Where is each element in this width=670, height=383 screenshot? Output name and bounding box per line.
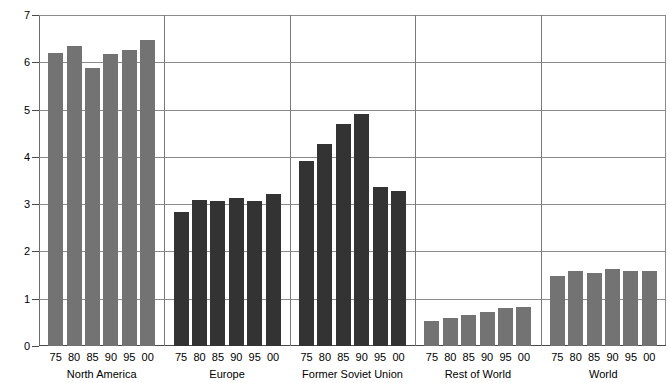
bar [122,50,137,346]
bar [299,161,314,346]
y-tick-mark [32,15,39,16]
y-tick-mark [32,110,39,111]
x-tick-label: 00 [387,351,411,363]
bar [550,276,565,346]
group-label: North America [39,368,164,380]
bar [605,269,620,346]
bar [192,200,207,346]
bar [568,271,583,346]
bar-chart: Tons oil equivalent 01234567 75808590950… [0,0,670,383]
bar [85,68,100,346]
bar [461,315,476,346]
bar [174,212,189,346]
bar [587,273,602,346]
y-tick-label: 5 [4,105,30,115]
group-separator [415,15,416,346]
y-tick-label: 1 [4,294,30,304]
bar [140,40,155,346]
bar [210,201,225,346]
bar [48,53,63,346]
bar [391,191,406,346]
bar [67,46,82,346]
bar [229,198,244,346]
group-label: Europe [164,368,289,380]
bar [266,194,281,346]
x-tick-label: 00 [512,351,536,363]
bar [103,54,118,346]
y-tick-mark [32,299,39,300]
y-tick-mark [32,204,39,205]
gridline [39,15,666,16]
bar [354,114,369,346]
group-label: World [541,368,666,380]
group-label: Rest of World [415,368,540,380]
y-tick-mark [32,157,39,158]
group-label: Former Soviet Union [290,368,415,380]
bar [480,312,495,346]
bar [373,187,388,346]
bar [642,271,657,346]
bar [498,308,513,346]
bar [443,318,458,346]
group-separator [541,15,542,346]
y-tick-label: 2 [4,246,30,256]
group-separator [164,15,165,346]
y-tick-mark [32,62,39,63]
y-tick-mark [32,251,39,252]
plot-right-border [665,15,666,346]
plot-area [39,15,666,346]
y-tick-label: 4 [4,152,30,162]
bar [336,124,351,346]
bar [424,321,439,346]
y-tick-label: 6 [4,57,30,67]
x-tick-label: 00 [637,351,661,363]
y-axis-line [39,15,40,346]
group-separator [290,15,291,346]
bar [516,307,531,346]
x-tick-label: 00 [261,351,285,363]
y-tick-label: 0 [4,341,30,351]
y-tick-label: 7 [4,10,30,20]
y-tick-label: 3 [4,199,30,209]
bar [247,201,262,346]
x-tick-label: 00 [136,351,160,363]
bar [317,144,332,346]
bar [623,271,638,346]
y-tick-mark [32,346,39,347]
